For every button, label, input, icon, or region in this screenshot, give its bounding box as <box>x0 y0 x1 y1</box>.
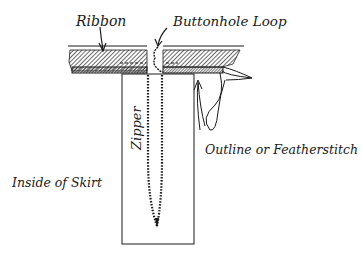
thread-stitch <box>197 67 252 130</box>
ribbon-arrow <box>99 27 106 51</box>
zipper-ribbon-diagram: Ribbon Buttonhole Loop Zipper Outline or… <box>0 0 362 254</box>
ribbon-left <box>69 50 147 73</box>
ribbon-right <box>163 50 240 73</box>
buttonhole-loop-label: Buttonhole Loop <box>172 13 287 29</box>
buttonhole-arrow <box>155 28 167 46</box>
outline-featherstitch-label: Outline or Featherstitch <box>205 142 358 157</box>
zipper-teeth <box>148 75 162 228</box>
featherstitch-arrow <box>194 80 205 126</box>
buttonhole-loop <box>154 47 163 72</box>
ribbon-label: Ribbon <box>75 13 126 29</box>
zipper-label: Zipper <box>129 105 144 151</box>
inside-of-skirt-label: Inside of Skirt <box>11 175 103 190</box>
